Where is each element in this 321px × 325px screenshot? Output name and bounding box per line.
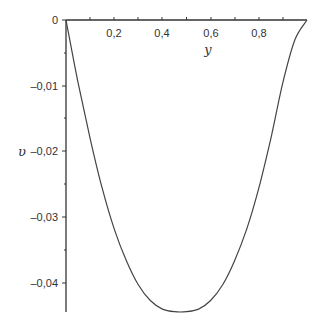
y-tick-label: –0,03 xyxy=(30,211,58,223)
y-tick-label: –0,01 xyxy=(30,80,58,92)
x-tick-label: 0,8 xyxy=(251,27,266,39)
x-tick-label: 0,6 xyxy=(203,27,218,39)
y-tick-label: –0,04 xyxy=(30,277,58,289)
chart: 0,2 0,4 0,6 0,8 y 0 –0,01 –0,02 –0,03 –0… xyxy=(0,0,321,325)
y-tick-label: 0 xyxy=(52,14,58,26)
data-curve xyxy=(66,20,307,312)
x-tick-label: 0,2 xyxy=(106,27,121,39)
x-axis-label: y xyxy=(203,42,212,57)
y-axis-label: υ xyxy=(18,144,26,159)
y-tick-label: –0,02 xyxy=(30,145,58,157)
x-tick-label: 0,4 xyxy=(154,27,169,39)
